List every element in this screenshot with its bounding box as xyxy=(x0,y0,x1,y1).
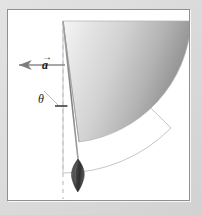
acceleration-vector-label: → a xyxy=(42,54,52,71)
pendulum-bob xyxy=(72,159,85,192)
pendulum-diagram-svg xyxy=(8,10,189,200)
theta-leader-line xyxy=(44,91,58,105)
figure-frame: → a θ xyxy=(7,9,190,201)
figure-root: → a θ xyxy=(0,0,202,215)
acceleration-vector-symbol: a xyxy=(42,58,48,72)
swept-sector-shaded xyxy=(63,21,189,142)
angle-theta-label: θ xyxy=(38,93,44,105)
